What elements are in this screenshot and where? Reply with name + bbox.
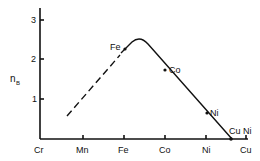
- x-label-cr: Cr: [34, 145, 44, 155]
- x-label-cu: Cu: [240, 145, 252, 155]
- point-cu-ni: [229, 137, 233, 141]
- point-fe: [123, 47, 126, 50]
- annotation-co: Co: [169, 65, 181, 75]
- annotation-fe: Fe: [110, 42, 121, 52]
- x-label-mn: Mn: [76, 145, 89, 155]
- y-tick-label-2: 2: [31, 54, 36, 64]
- annotation-cu-ni: Cu Ni: [229, 126, 252, 136]
- annotation-ni: Ni: [210, 108, 219, 118]
- y-tick-label-1: 1: [32, 94, 37, 104]
- x-label-fe: Fe: [118, 145, 129, 155]
- y-tick-label-3: 3: [31, 15, 36, 25]
- point-co: [163, 68, 166, 71]
- slater-pauling-curve: [121, 39, 232, 139]
- y-axis-label: n: [10, 73, 16, 84]
- point-ni: [205, 111, 208, 114]
- y-axis-label-subscript: B: [16, 80, 20, 86]
- x-label-co: Co: [159, 145, 171, 155]
- x-label-ni: Ni: [202, 145, 211, 155]
- chart: 3 2 1 n B Cr Mn Fe Co Ni Cu Fe Co Ni Cu …: [0, 0, 260, 161]
- dashed-extrapolation-line: [67, 55, 120, 116]
